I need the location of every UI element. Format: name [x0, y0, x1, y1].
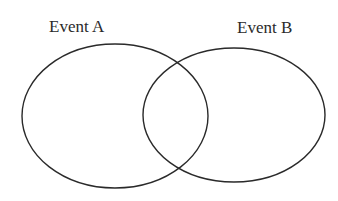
- ellipse-event-a: [22, 44, 208, 188]
- venn-diagram: Event A Event B: [0, 0, 338, 201]
- label-event-b: Event B: [237, 18, 292, 37]
- label-event-a: Event A: [49, 17, 105, 36]
- ellipse-event-b: [143, 48, 325, 182]
